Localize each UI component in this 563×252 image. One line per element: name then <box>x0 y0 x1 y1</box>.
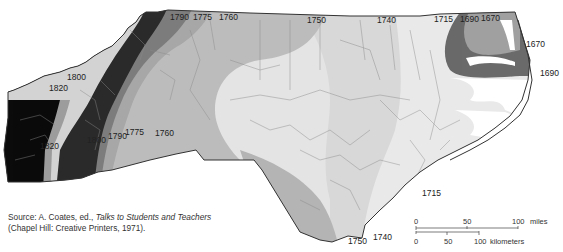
label-1670-ne: 1670 <box>526 40 545 49</box>
label-1775-sw: 1775 <box>125 128 144 137</box>
label-1690-top: 1690 <box>460 15 479 24</box>
label-1740-top: 1740 <box>377 16 396 25</box>
label-1690-ne: 1690 <box>540 69 559 78</box>
label-1670-top: 1670 <box>481 14 500 23</box>
label-1800-sw: 1800 <box>87 136 106 145</box>
scale-miles-unit: miles <box>530 217 548 226</box>
label-1715-se: 1715 <box>422 189 441 198</box>
source-publisher: (Chapel Hill: Creative Printers, 1971). <box>8 223 211 234</box>
source-title: Talks to Students and Teachers <box>96 212 212 222</box>
label-1790-top: 1790 <box>170 13 189 22</box>
label-1750-se: 1750 <box>348 237 367 246</box>
source-prefix: Source: A. Coates, ed., <box>8 212 96 222</box>
label-1775-top: 1775 <box>193 13 212 22</box>
scale-miles-100: 100 <box>512 217 525 226</box>
scale-miles-50: 50 <box>463 217 471 226</box>
label-1820-sw: 1820 <box>40 142 59 151</box>
label-1715-top: 1715 <box>434 15 453 24</box>
scale-miles-0: 0 <box>414 217 418 226</box>
scale-bar: 0 50 100 miles 0 50 100 kilometers <box>413 214 563 250</box>
scale-km-50: 50 <box>444 237 452 246</box>
label-1760-sw: 1760 <box>155 129 174 138</box>
label-1750-top: 1750 <box>307 16 326 25</box>
label-1820-west: 1820 <box>49 84 68 93</box>
label-1740-se: 1740 <box>373 233 392 242</box>
label-1800-west: 1800 <box>67 73 86 82</box>
source-citation: Source: A. Coates, ed., Talks to Student… <box>8 212 211 233</box>
scale-km-unit: kilometers <box>490 237 524 246</box>
scale-km-0: 0 <box>414 237 418 246</box>
label-1760-top: 1760 <box>219 13 238 22</box>
scale-km-100: 100 <box>474 237 487 246</box>
